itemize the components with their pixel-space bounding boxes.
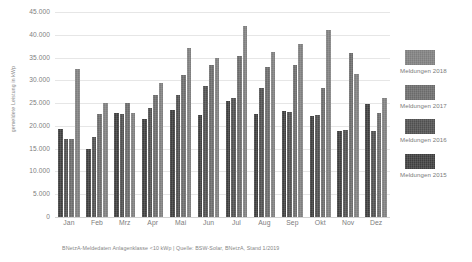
bar [209, 65, 214, 217]
x-axis-tick-label: Mai [168, 219, 194, 226]
y-axis-tick-label: 10.000 [6, 167, 50, 174]
legend-item[interactable]: Meldungen 2016 [400, 119, 472, 143]
chart-legend: Meldungen 2018Meldungen 2017Meldungen 20… [400, 50, 472, 188]
bar-group [279, 12, 305, 217]
bar [75, 69, 80, 217]
bar [86, 149, 91, 217]
bar [293, 65, 298, 217]
bar [282, 111, 287, 217]
bar-groups [55, 12, 390, 217]
bar [181, 75, 186, 217]
legend-swatch [405, 154, 435, 169]
y-axis-tick-label: 45.000 [6, 8, 50, 15]
bar [120, 114, 125, 217]
bar [321, 88, 326, 217]
x-axis-tick-label: Feb [84, 219, 110, 226]
bar [315, 115, 320, 218]
bar [69, 139, 74, 217]
bar [114, 113, 119, 217]
bar [215, 58, 220, 217]
bar [243, 26, 248, 217]
x-axis-tick-label: Jan [56, 219, 82, 226]
x-axis-tick-label: Nov [335, 219, 361, 226]
bar [371, 131, 376, 217]
bar [58, 129, 63, 217]
legend-item[interactable]: Meldungen 2017 [400, 85, 472, 109]
bar-group [112, 12, 138, 217]
bar [265, 67, 270, 217]
bar [142, 119, 147, 217]
bar [377, 113, 382, 217]
legend-label: Meldungen 2017 [400, 102, 472, 109]
bar-group [56, 12, 82, 217]
bar-group [168, 12, 194, 217]
bar [125, 103, 130, 217]
gridline [55, 217, 390, 218]
x-axis-tick-label: Sep [279, 219, 305, 226]
bar [198, 115, 203, 217]
y-axis-tick-label: 0 [6, 213, 50, 220]
legend-swatch [405, 85, 435, 100]
legend-swatch [405, 50, 435, 65]
bar [103, 103, 108, 217]
chart-caption: BNetzA-Meldedaten Anlagenklasse <10 kWp … [62, 245, 279, 251]
bar [231, 98, 236, 217]
y-axis-tick-label: 5.000 [6, 190, 50, 197]
x-axis-tick-label: Okt [307, 219, 333, 226]
bar [203, 86, 208, 217]
x-axis-tick-label: Dez [363, 219, 389, 226]
y-axis-tick-label: 30.000 [6, 76, 50, 83]
x-axis-tick-label: Mrz [112, 219, 138, 226]
x-axis-tick-label: Aug [251, 219, 277, 226]
bar [148, 108, 153, 217]
y-axis-tick-label: 40.000 [6, 31, 50, 38]
bar-group [251, 12, 277, 217]
chart-container: gemeldete Leistung in kWp 05.00010.00015… [0, 0, 472, 262]
bar [349, 53, 354, 217]
plot-area: 05.00010.00015.00020.00025.00030.00035.0… [55, 12, 390, 217]
legend-label: Meldungen 2018 [400, 67, 472, 74]
bar [64, 139, 69, 217]
bar [271, 52, 276, 217]
legend-swatch [405, 119, 435, 134]
legend-label: Meldungen 2016 [400, 136, 472, 143]
bar-group [140, 12, 166, 217]
bar [310, 116, 315, 217]
bar [343, 130, 348, 217]
bar [131, 113, 136, 217]
y-axis-tick-label: 20.000 [6, 122, 50, 129]
bar [153, 95, 158, 217]
y-axis-tick-label: 35.000 [6, 54, 50, 61]
legend-item[interactable]: Meldungen 2015 [400, 154, 472, 178]
bar [170, 110, 175, 217]
bar [326, 30, 331, 217]
legend-label: Meldungen 2015 [400, 171, 472, 178]
bar-group [307, 12, 333, 217]
bar-group [335, 12, 361, 217]
bar-group [224, 12, 250, 217]
bar [237, 56, 242, 217]
bar [187, 48, 192, 217]
y-axis-tick-label: 25.000 [6, 99, 50, 106]
bar [92, 137, 97, 217]
bar-group [196, 12, 222, 217]
bar-group [363, 12, 389, 217]
bar [365, 104, 370, 217]
bar [354, 74, 359, 217]
x-axis-tick-label: Apr [140, 219, 166, 226]
bar [254, 114, 259, 217]
bar [337, 131, 342, 217]
bar [226, 101, 231, 217]
x-axis-ticks: JanFebMrzAprMaiJunJulAugSepOktNovDez [55, 219, 390, 226]
bar [97, 114, 102, 217]
bar [287, 112, 292, 217]
x-axis-tick-label: Jul [224, 219, 250, 226]
bar [259, 88, 264, 217]
legend-item[interactable]: Meldungen 2018 [400, 50, 472, 74]
bar [176, 95, 181, 217]
x-axis-tick-label: Jun [196, 219, 222, 226]
bar-group [84, 12, 110, 217]
bar [159, 83, 164, 217]
bar [382, 98, 387, 217]
bar [298, 44, 303, 217]
